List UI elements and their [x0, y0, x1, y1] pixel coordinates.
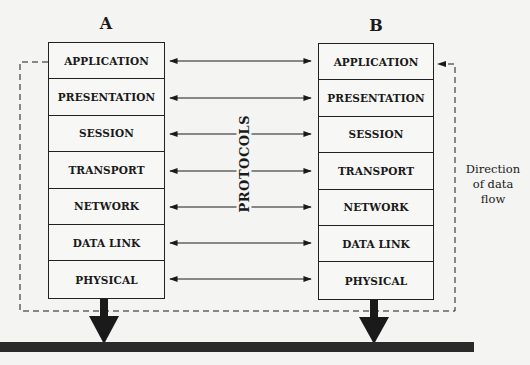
data-flow-arrowhead-icon: [437, 61, 446, 67]
layer-a-application: APPLICATION: [49, 43, 164, 79]
layer-b-presentation: PRESENTATION: [319, 80, 433, 116]
direction-note-line1: Direction: [458, 162, 528, 177]
layer-a-presentation: PRESENTATION: [49, 79, 164, 115]
layer-a-transport: TRANSPORT: [49, 152, 164, 188]
layer-b-data-link: DATA LINK: [319, 226, 433, 262]
stack-b: APPLICATION PRESENTATION SESSION TRANSPO…: [318, 43, 434, 300]
layer-b-physical: PHYSICAL: [319, 262, 433, 298]
layer-b-session: SESSION: [319, 117, 433, 153]
direction-of-data-flow-note: Direction of data flow: [458, 162, 528, 207]
layer-a-session: SESSION: [49, 116, 164, 152]
transmission-medium-bar: [0, 342, 474, 352]
layer-b-transport: TRANSPORT: [319, 153, 433, 189]
direction-note-line2: of data: [458, 177, 528, 192]
layer-b-network: NETWORK: [319, 190, 433, 226]
layer-a-physical: PHYSICAL: [49, 261, 164, 297]
direction-note-line3: flow: [458, 192, 528, 207]
layer-a-data-link: DATA LINK: [49, 225, 164, 261]
layer-a-network: NETWORK: [49, 189, 164, 225]
stack-a: APPLICATION PRESENTATION SESSION TRANSPO…: [48, 42, 165, 299]
layer-b-application: APPLICATION: [319, 44, 433, 80]
down-arrow-icons: [89, 297, 389, 344]
protocols-label: PROTOCOLS: [237, 124, 252, 216]
